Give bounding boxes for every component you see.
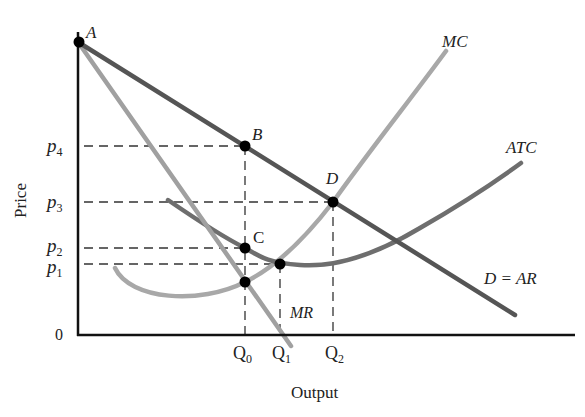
point-a: [74, 37, 85, 48]
mr-label: MR: [290, 305, 313, 321]
origin-label: 0: [55, 327, 63, 343]
p1-sub: 1: [57, 266, 63, 280]
p3-letter: p: [47, 191, 57, 212]
point-d: [328, 197, 339, 208]
q0-label: Q0: [233, 344, 252, 365]
q2-sub: 2: [338, 352, 344, 366]
points: [74, 37, 339, 288]
y-axis-title: Price: [12, 176, 29, 226]
p4-sub: 4: [57, 145, 63, 159]
point-d-label: D: [326, 170, 338, 187]
p2-label: p2: [47, 236, 63, 258]
p2-letter: p: [47, 235, 57, 256]
q1-sub: 1: [285, 352, 291, 366]
atc-label: ATC: [506, 139, 537, 156]
p3-label: p3: [47, 192, 63, 214]
q0-letter: Q: [233, 343, 246, 363]
point-a-label: A: [86, 24, 96, 41]
point-b-label: B: [252, 126, 262, 143]
point-mc-mr: [240, 277, 251, 288]
point-c-label: C: [253, 229, 264, 246]
demand-label: D = AR: [484, 270, 537, 287]
q1-letter: Q: [272, 343, 285, 363]
p4-label: p4: [47, 136, 63, 158]
point-b: [240, 141, 251, 152]
demand-curve: [78, 42, 515, 315]
x-axis-title: Output: [291, 384, 338, 401]
point-c: [240, 243, 251, 254]
mr-curve: [78, 42, 291, 346]
p1-label: p1: [47, 257, 63, 279]
p1-letter: p: [47, 256, 57, 277]
diagram-canvas: [0, 0, 585, 417]
point-atc-min: [275, 259, 286, 270]
q2-letter: Q: [325, 343, 338, 363]
p4-letter: p: [47, 135, 57, 156]
mc-label: MC: [442, 33, 468, 50]
atc-curve: [168, 163, 521, 265]
q1-label: Q1: [272, 344, 291, 365]
q2-label: Q2: [325, 344, 344, 365]
q0-sub: 0: [246, 352, 252, 366]
p3-sub: 3: [57, 201, 63, 215]
